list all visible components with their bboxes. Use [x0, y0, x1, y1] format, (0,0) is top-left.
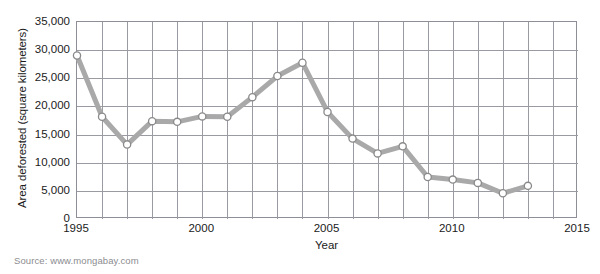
data-point	[449, 176, 456, 183]
x-axis-tick-label: 2000	[171, 222, 231, 234]
y-axis-tick-label: 20,000	[24, 99, 70, 111]
data-point	[474, 179, 481, 186]
data-point	[299, 59, 306, 66]
data-point	[98, 113, 105, 120]
y-axis-tick-label: 35,000	[24, 15, 70, 27]
x-axis-tick-label: 2015	[547, 222, 600, 234]
data-point	[524, 182, 531, 189]
x-axis-tick-label: 1995	[46, 222, 106, 234]
data-point	[249, 94, 256, 101]
data-point	[174, 118, 181, 125]
data-point	[424, 173, 431, 180]
y-axis-tick-label: 5,000	[24, 184, 70, 196]
x-axis-title: Year	[76, 239, 577, 251]
y-axis-tick-label: 30,000	[24, 43, 70, 55]
data-point	[349, 135, 356, 142]
plot-svg	[77, 22, 578, 219]
data-point	[73, 52, 80, 59]
deforestation-line-chart: Area deforested (square kilometers) 05,0…	[0, 0, 600, 274]
data-point	[324, 108, 331, 115]
plot-area	[76, 21, 577, 218]
data-point	[499, 190, 506, 197]
data-point	[274, 72, 281, 79]
data-point	[374, 150, 381, 157]
data-point	[149, 118, 156, 125]
data-point	[199, 113, 206, 120]
y-axis-tick-label: 10,000	[24, 156, 70, 168]
data-point	[224, 113, 231, 120]
data-point	[399, 143, 406, 150]
y-axis-tick-label: 25,000	[24, 71, 70, 83]
x-axis-tick-labels: 19952000200520102015	[0, 222, 600, 240]
x-axis-tick-label: 2010	[422, 222, 482, 234]
y-axis-tick-label: 15,000	[24, 128, 70, 140]
data-point	[124, 141, 131, 148]
x-axis-tick-label: 2005	[297, 222, 357, 234]
source-note: Source: www.mongabay.com	[14, 255, 139, 266]
